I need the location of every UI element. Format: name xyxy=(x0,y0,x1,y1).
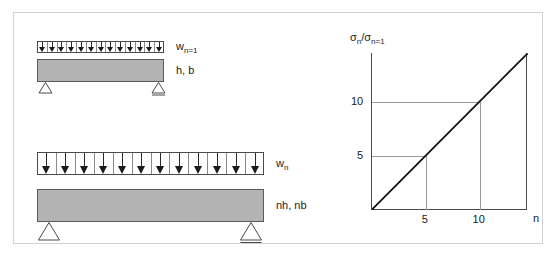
load-arrow-stem xyxy=(217,153,218,167)
load-arrow-head xyxy=(99,166,107,174)
load-arrow-head xyxy=(213,166,221,174)
load-label-unit-beam-sub: n=1 xyxy=(184,46,198,55)
load-arrow-stem xyxy=(141,153,142,167)
load-arrow-head xyxy=(156,47,162,52)
load-arrow-head xyxy=(49,47,55,52)
chart-y-axis-title: σn/σn=1 xyxy=(350,31,385,46)
load-label-unit-beam: wn=1 xyxy=(176,40,198,57)
load-label-scaled-beam-text: w xyxy=(276,157,284,169)
load-label-unit-beam-text: w xyxy=(176,40,184,52)
section-label-unit-beam: h, b xyxy=(176,64,194,76)
section-label-scaled-beam: nh, nb xyxy=(276,199,307,211)
load-arrow-stem xyxy=(198,153,199,167)
load-arrow-stem xyxy=(84,153,85,167)
support-pin-left-scaled-beam xyxy=(37,222,61,241)
load-cell-divider xyxy=(86,42,87,52)
load-cell-divider xyxy=(115,42,116,52)
load-arrow-head xyxy=(39,47,45,52)
load-cell-divider xyxy=(207,153,208,174)
load-arrow-stem xyxy=(179,153,180,167)
load-cell-divider xyxy=(245,153,246,174)
load-arrow-stem xyxy=(65,153,66,167)
load-arrow-head xyxy=(127,47,133,52)
load-arrow-head xyxy=(98,47,104,52)
load-label-scaled-beam: wn xyxy=(276,157,288,174)
load-cell-divider xyxy=(56,153,57,174)
y-axis-sub-2: n=1 xyxy=(371,37,385,46)
load-arrow-stem xyxy=(255,153,256,167)
y-axis-sigma-1: σ xyxy=(350,31,357,43)
support-roller-right-scaled-beam xyxy=(239,222,263,244)
load-arrow-head xyxy=(137,166,145,174)
load-arrow-head xyxy=(61,166,69,174)
load-arrow-stem xyxy=(103,153,104,167)
chart-series-line xyxy=(372,53,528,210)
stress-ratio-chart xyxy=(371,53,527,210)
load-arrow-stem xyxy=(122,153,123,167)
load-cell-divider xyxy=(135,42,136,52)
load-cell-divider xyxy=(125,42,126,52)
load-cell-divider xyxy=(132,153,133,174)
load-cell-divider xyxy=(105,42,106,52)
load-arrow-head xyxy=(156,166,164,174)
chart-x-tick-label: 10 xyxy=(473,213,485,225)
load-cell-divider xyxy=(66,42,67,52)
load-arrow-head xyxy=(42,166,50,174)
load-cell-divider xyxy=(94,153,95,174)
load-cell-divider xyxy=(188,153,189,174)
load-arrow-stem xyxy=(160,153,161,167)
beam-scaled-section xyxy=(37,189,264,222)
load-arrow-head xyxy=(68,47,74,52)
load-arrow-head xyxy=(80,166,88,174)
load-cell-divider xyxy=(75,153,76,174)
load-cell-divider xyxy=(76,42,77,52)
load-arrow-stem xyxy=(46,153,47,167)
chart-y-tick-label: 5 xyxy=(357,149,363,161)
chart-y-tick-label: 10 xyxy=(351,95,363,107)
chart-x-tick-label: 5 xyxy=(422,213,428,225)
load-label-scaled-beam-sub: n xyxy=(284,163,288,172)
load-cell-divider xyxy=(113,153,114,174)
chart-x-axis-title: n xyxy=(533,212,539,224)
load-cell-divider xyxy=(57,42,58,52)
load-arrow-head xyxy=(175,166,183,174)
load-cell-divider xyxy=(154,42,155,52)
beam-unit-section xyxy=(37,59,164,82)
figure-root: wn=1 h, b wn nh, nb σn/σn=1 510510 n xyxy=(0,0,558,258)
support-pin-left-unit-beam xyxy=(38,82,53,94)
load-arrow-stem xyxy=(236,153,237,167)
load-arrow-head xyxy=(88,47,94,52)
load-arrow-head xyxy=(232,166,240,174)
load-cell-divider xyxy=(151,153,152,174)
load-cell-divider xyxy=(226,153,227,174)
load-arrow-head xyxy=(118,166,126,174)
load-arrow-head xyxy=(58,47,64,52)
load-arrow-head xyxy=(78,47,84,52)
support-roller-right-unit-beam xyxy=(151,82,166,96)
load-arrow-head xyxy=(117,47,123,52)
load-cell-divider xyxy=(169,153,170,174)
load-arrow-head xyxy=(194,166,202,174)
load-arrow-head xyxy=(107,47,113,52)
load-arrow-head xyxy=(146,47,152,52)
load-arrow-head xyxy=(251,166,259,174)
load-cell-divider xyxy=(96,42,97,52)
load-cell-divider xyxy=(144,42,145,52)
load-cell-divider xyxy=(47,42,48,52)
load-arrow-head xyxy=(137,47,143,52)
y-axis-slash: /σ xyxy=(361,31,371,43)
